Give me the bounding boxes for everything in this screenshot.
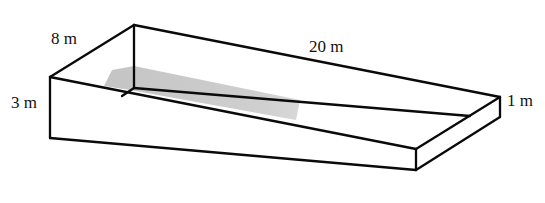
label-shallow-end-height: 1 m [507,91,533,110]
shallow-end-bottom-edge [416,117,500,170]
label-width: 8 m [51,29,77,48]
label-deep-end-height: 3 m [11,93,37,112]
label-length: 20 m [309,37,343,56]
top-right-width-edge [416,97,500,149]
trough-diagram: 8 m 20 m 3 m 1 m [0,0,545,203]
floor-back-slope-edge [134,88,470,116]
bottom-front-edge [50,138,416,170]
